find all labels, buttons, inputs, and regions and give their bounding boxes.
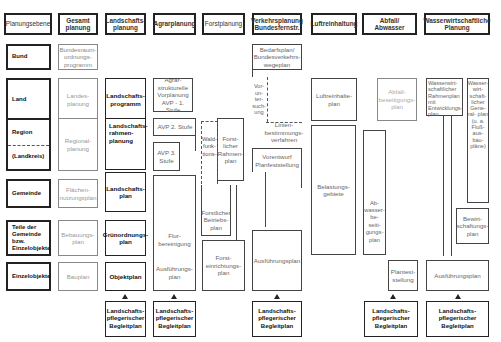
box-text: Belastungs- gebiete (313, 183, 354, 198)
box-forsteinrichtungsplan: Forst- einrichtungs- plan (202, 240, 245, 291)
header-label: Forstplanung (205, 20, 242, 27)
box-text: Ausführungsplan (434, 272, 480, 279)
box-abwasserbeseitigungsplan: Ab- wasser- be- seiti- gungs- plan (363, 130, 386, 255)
box-regionalplanung: Regional- planung (58, 118, 98, 171)
level-divider (8, 145, 49, 146)
box-objektplan: Objektplan (105, 262, 146, 291)
connector-line (443, 116, 444, 256)
header-gesamtplanung: Gesamt planung (58, 13, 98, 35)
box-text: Flur- bereinigung (155, 232, 194, 247)
box-text: Forst- licher Rahmen- plan (218, 135, 243, 165)
level-label: Bund (12, 53, 27, 60)
header-label: Abfall/ Abwasser (365, 17, 414, 32)
box-linienbestimmungsverfahren: Linien- bestimmungs- verfahren (266, 122, 302, 142)
begleitplan-verkehr: Landschafts- pflegerischer Begleitplan (252, 301, 302, 337)
begleitplan-wasser: Landschafts- pflegerischer Begleitplan (426, 301, 489, 337)
box-text: Wasserwirt- schaftlicher Rahmenplan mit … (428, 80, 463, 118)
box-ausfuehrungsplan-verkehr: Ausführungsplan (252, 230, 302, 291)
level-bund: Bund (6, 44, 51, 70)
box-text: Flächen- nutzungsplan (60, 186, 97, 201)
box-text: AVP 3. Stufe (155, 149, 178, 164)
connector-line (301, 148, 302, 188)
connector-line (451, 116, 452, 256)
header-agrarplanung: Agrarplanung (153, 13, 196, 35)
arrow-up-icon (122, 294, 128, 299)
box-vorentwurf: Vorentwurf Planfeststellung (252, 148, 302, 172)
box-text: Bedarfsplan/ Bundesverkehrs- wegeplan (254, 46, 301, 68)
header-forstplanung: Forstplanung (202, 13, 245, 35)
box-text: Landes- planung (60, 92, 96, 107)
box-text: Forst- einrichtungs- plan (204, 254, 243, 276)
arrow-up-icon (274, 294, 280, 299)
box-text: Ausführungs- plan (155, 265, 194, 280)
level-gemeinde: Gemeinde (6, 179, 51, 208)
level-label: Land (12, 96, 26, 103)
header-label: Agrarplanung (154, 20, 196, 27)
box-planfeststellung: Plantest- stellung (388, 260, 418, 291)
level-einzelobjekte: Einzelobjekte (6, 262, 51, 291)
box-text: Wasser- wirt- schaft- licher Gene- ral- … (468, 80, 489, 149)
box-gruenordnungsplan: Grünordnungs- plan (105, 220, 146, 256)
box-text: Luftreinhalte- plan (313, 92, 355, 107)
box-landschaftsrahmenplanung: Landschafts- rahmen- planung (105, 118, 146, 170)
box-wasserwirtschaftlicher-rahmenplan: Wasserwirt- schaftlicher Rahmenplan mit … (426, 78, 463, 116)
box-text: Abfall- beseitigungs- plan (379, 88, 416, 110)
box-flurbereinigung: Flur- bereinigung Ausführungs- plan (153, 175, 196, 291)
box-text: Landschafts- plan (106, 185, 145, 200)
box-text: Ausführungsplan (254, 257, 300, 264)
box-text: Landschafts- rahmen- planung (109, 122, 148, 144)
box-bundesraumordnungsprogramm: Bundesraum- ordnungs- programm (58, 44, 98, 70)
connector-line (265, 172, 266, 227)
box-ausfuehrungsplan-wasser: Ausführungsplan (426, 260, 489, 291)
begleitplan-abfall: Landschafts- pflegerischer Begleitplan (364, 301, 418, 337)
header-luftreinhaltung: Luftreinhaltung (311, 13, 357, 35)
header-landschaftsplanung: Landschafts- planung (105, 13, 146, 35)
box-bebauungsplan: Bebauungs- plan (58, 220, 98, 256)
box-text: Grünordnungs- plan (103, 231, 148, 246)
box-text: Wald- funk- tions- (202, 136, 217, 158)
header-label: Planungsebene (6, 20, 50, 27)
box-avp-3-stufe: AVP 3. Stufe (153, 142, 180, 171)
box-forstlicher-betriebsplan: Forstlicher Betriebs- plan (201, 185, 231, 236)
box-agrarstrukturelle-vorplanung: Agrar- strukturelle Vorplanung AVP - 1. … (153, 78, 193, 112)
box-abfallbeseitigungsplan: Abfall- beseitigungs- plan (377, 78, 417, 121)
box-text: Landschafts- programm (106, 92, 145, 107)
box-text: Landschafts- pflegerischer Begleitplan (428, 308, 487, 330)
dashed-separator (267, 77, 268, 122)
box-luftreinhalteplan: Luftreinhalte- plan (311, 78, 357, 121)
box-text: Ab- wasser- be- seiti- gungs- plan (364, 200, 384, 244)
box-text: Bauplan (67, 273, 90, 280)
box-text: Landschafts- pflegerischer Begleitplan (366, 308, 416, 330)
box-landschaftsplan: Landschafts- plan (105, 172, 146, 212)
box-avp-2-stufe: AVP 2. Stufe (153, 118, 196, 136)
header-wasserwirtschaft: Wasserwirtschaftliche Planung (424, 13, 490, 35)
header-planungsebene: Planungsebene (4, 13, 52, 35)
box-text: Bebauungs- plan (60, 231, 96, 246)
arrow-up-icon (171, 294, 177, 299)
level-teile: Teile der Gemeinde bzw. Einzelobjekte (6, 220, 51, 256)
box-landesplanung: Landes- planung (58, 78, 98, 121)
box-text: Plantest- stellung (390, 268, 416, 283)
level-label: Teile der Gemeinde bzw. Einzelobjekte (12, 224, 50, 252)
box-voruntersuchung: Vor- un- ter- such- ung (252, 77, 266, 122)
connector-line (195, 118, 196, 151)
box-flaechennutzungsplan: Flächen- nutzungsplan (58, 179, 98, 208)
box-text: Agrar- strukturelle Vorplanung AVP - 1. … (155, 76, 191, 113)
box-text: Bundesraum- ordnungs- programm (59, 46, 96, 68)
level-land: Land (6, 78, 51, 121)
box-text: Vorentwurf Planfeststellung (254, 153, 300, 168)
box-text: Landschafts- pflegerischer Begleitplan (107, 308, 145, 330)
box-text: Bewirt- schaftungs- plan (457, 215, 489, 237)
header-abfall-abwasser: Abfall/ Abwasser (362, 13, 417, 35)
level-label: Einzelobjekte (12, 273, 50, 280)
begleitplan-landschaft: Landschafts- pflegerischer Begleitplan (105, 301, 146, 337)
begleitplan-agrar: Landschafts- pflegerischer Begleitplan (153, 301, 196, 337)
header-label: Luftreinhaltung (311, 20, 358, 27)
connector-line (236, 185, 237, 240)
box-belastungsgebiete: Belastungs- gebiete (311, 125, 356, 255)
box-bedarfsplan: Bedarfsplan/ Bundesverkehrs- wegeplan (252, 44, 302, 70)
header-label: Verkehrsplanung Bundesfernstr. (251, 17, 303, 32)
box-text: AVP 2. Stufe (158, 123, 193, 130)
header-label: Wasserwirtschaftliche Planung (423, 17, 490, 32)
box-text: Landschafts- pflegerischer Begleitplan (254, 308, 300, 330)
